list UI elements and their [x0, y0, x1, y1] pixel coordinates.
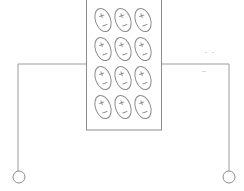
dielectric-diagram: +−+−+−+−+−+−+−+−+−+−+−+−: [0, 0, 244, 191]
wire-left: [18, 64, 86, 171]
faint-marks: [202, 52, 214, 72]
left-terminal: [13, 171, 25, 183]
wire-right: [162, 64, 229, 171]
right-terminal: [223, 171, 235, 183]
